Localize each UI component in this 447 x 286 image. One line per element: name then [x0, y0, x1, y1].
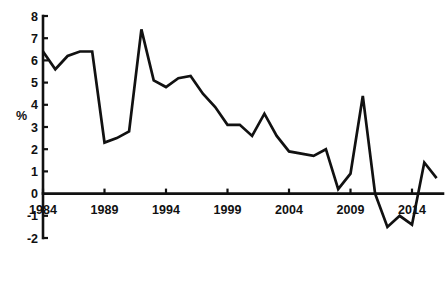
y-axis-title-group: %: [16, 109, 27, 123]
x-tick-label: 1999: [214, 203, 242, 217]
y-tick-label: 3: [31, 121, 38, 135]
x-tick-label: 1994: [152, 203, 180, 217]
x-tick-label: 2014: [398, 203, 426, 217]
y-tick-label: 7: [31, 32, 38, 46]
line-chart: 876543210-1-2 19841989199419992004200920…: [0, 0, 447, 286]
y-tick-label: 2: [31, 143, 38, 157]
y-tick-label: 4: [31, 98, 38, 112]
y-tick-label: 6: [31, 54, 38, 68]
y-tick-label: -2: [27, 232, 38, 246]
y-tick-label: 8: [31, 10, 38, 24]
y-tick-label: 1: [31, 165, 38, 179]
chart-container: 876543210-1-2 19841989199419992004200920…: [0, 0, 447, 286]
data-series-line: [43, 29, 437, 227]
x-tick-label: 2004: [275, 203, 303, 217]
x-tick-label: 1989: [91, 203, 119, 217]
y-tick-label: 0: [31, 187, 38, 201]
x-axis-tick-labels: 1984198919941999200420092014: [29, 203, 426, 217]
x-tick-label: 2009: [337, 203, 365, 217]
y-axis-title: %: [16, 109, 27, 123]
y-tick-label: 5: [31, 76, 38, 90]
